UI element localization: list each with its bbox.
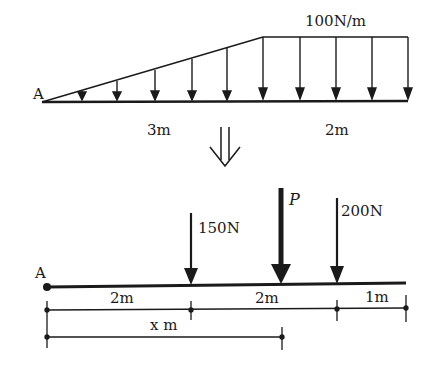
equivalence-arrow-icon — [210, 127, 240, 166]
beam-bottom — [47, 283, 406, 287]
equivalent-forces-diagram: A 150N P 200N 2m 2m 1m — [34, 188, 408, 350]
force-200n-label: 200N — [341, 202, 383, 220]
force-p-label: P — [288, 190, 300, 209]
load-intensity-label: 100N/m — [305, 12, 366, 30]
point-a-label: A — [32, 85, 44, 103]
dimension-line-segments — [45, 295, 408, 348]
force-150n-label: 150N — [198, 219, 240, 237]
point-a-dot — [43, 283, 51, 291]
dim-label-2m-second: 2m — [255, 289, 279, 307]
segment-label-2m: 2m — [325, 121, 349, 139]
load-arrows — [78, 37, 412, 100]
dim-label-2m-first: 2m — [110, 289, 134, 307]
beam-top — [42, 101, 408, 102]
distributed-load-diagram: A 100N/m 3m 2m — [32, 12, 412, 139]
segment-label-3m: 3m — [147, 121, 171, 139]
point-a-label-bottom: A — [34, 264, 46, 282]
x-distance-label: x m — [150, 316, 177, 334]
dim-label-1m: 1m — [365, 288, 389, 306]
beam-diagram: A 100N/m 3m 2m A 150N — [0, 0, 432, 369]
